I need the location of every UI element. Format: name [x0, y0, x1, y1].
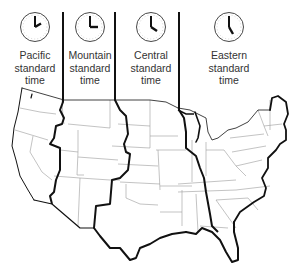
- pacific-mountain-boundary: [50, 12, 64, 204]
- zone-name: Eastern: [194, 49, 264, 62]
- mountain-clock-icon: [74, 11, 106, 43]
- pacific-clock-icon: [19, 11, 51, 43]
- zone-name: Mountain: [55, 49, 125, 62]
- zone-label-line: standard: [116, 62, 186, 75]
- mountain-zone-label: Mountain standard time: [55, 49, 125, 87]
- zone-label-line: standard: [194, 62, 264, 75]
- eastern-clock-icon: [213, 11, 245, 43]
- time-zone-boundaries: [50, 12, 218, 232]
- mountain-central-boundary: [94, 12, 130, 228]
- zone-label-line: time: [55, 74, 125, 87]
- central-clock-icon: [135, 11, 167, 43]
- zone-label-line: time: [116, 74, 186, 87]
- state-borders: [15, 100, 282, 232]
- zone-label-line: standard: [55, 62, 125, 75]
- zone-label-line: time: [194, 74, 264, 87]
- zone-name: Central: [116, 49, 186, 62]
- central-zone-label: Central standard time: [116, 49, 186, 87]
- eastern-zone-label: Eastern standard time: [194, 49, 264, 87]
